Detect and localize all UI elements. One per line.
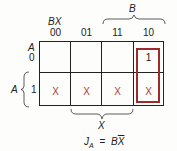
brace-left-label: A [11,85,18,95]
brace-left-icon [20,71,30,108]
cell-1-01: X [71,86,102,97]
brace-bottom-label: X [98,121,105,131]
col-header-11: 11 [102,28,133,38]
row-header-1: 1 [31,85,37,95]
col-header-01: 01 [71,28,102,38]
brace-top-label: B [129,4,136,14]
equation-rhs-xbar: X [118,136,125,147]
equation-eq: = [99,136,105,147]
equation: JA = BX [84,137,124,151]
brace-top-icon [102,14,166,26]
equation-lhs-sub: A [89,142,94,149]
col-header-10: 10 [133,28,164,38]
cell-1-11: X [102,86,133,97]
group-loop [136,48,160,103]
row-header-0: 0 [29,53,35,63]
col-vars-label: BX [48,17,61,27]
equation-rhs-b: B [111,136,118,147]
col-header-00: 00 [40,28,71,38]
cell-1-00: X [40,86,71,97]
brace-bottom-icon [70,108,134,120]
